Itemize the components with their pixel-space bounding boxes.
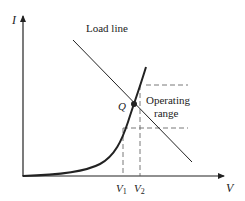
operating-range-label-line2: range <box>154 107 179 119</box>
iv-characteristic-diagram: I V Load line Q Operating range V1 V2 <box>0 0 245 201</box>
y-axis-label: I <box>11 13 17 27</box>
diode-curve <box>23 67 146 176</box>
v1-label-sub: 1 <box>123 187 127 196</box>
v2-label: V2 <box>134 182 145 196</box>
x-axis-label: V <box>226 181 235 195</box>
v1-label: V1 <box>116 182 127 196</box>
load-line-label: Load line <box>86 22 128 34</box>
v2-label-sub: 2 <box>141 187 145 196</box>
operating-range-label-line1: Operating <box>146 94 190 106</box>
q-point-label: Q <box>118 100 126 112</box>
q-point-marker <box>131 101 137 107</box>
